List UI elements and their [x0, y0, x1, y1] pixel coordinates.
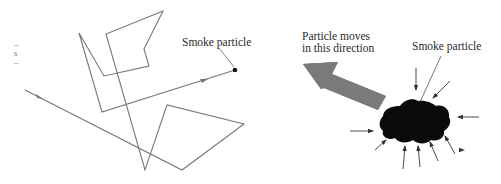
collision-diagram — [250, 0, 501, 184]
path-arrowhead-icon — [200, 79, 208, 83]
random-walk-path — [0, 0, 250, 184]
particle-collision-panel: Particle moves in this direction Smoke p… — [250, 0, 501, 184]
smoke-particle-label: Smoke particle — [182, 36, 251, 48]
impact-arrow-icon — [403, 146, 405, 169]
impact-arrow-icon — [445, 136, 455, 154]
impact-arrow-icon — [430, 142, 438, 161]
impact-arrow-icon — [433, 81, 450, 98]
smoke-particle-blob — [380, 99, 451, 143]
random-walk-panel: – s – Smoke particle — [0, 0, 250, 184]
smoke-particle-dot — [233, 68, 238, 73]
impact-arrow-icon — [418, 146, 420, 167]
impact-arrow-icon — [375, 140, 386, 150]
